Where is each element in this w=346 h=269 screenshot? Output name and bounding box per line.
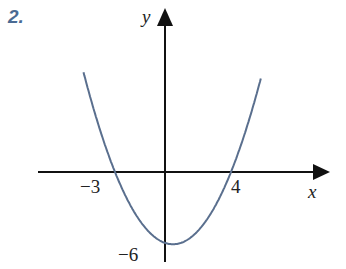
- parabola-graph: [0, 0, 346, 269]
- x-axis-label: x: [308, 181, 316, 203]
- y-axis-label: y: [142, 6, 150, 28]
- x-axis-arrow-icon: [313, 164, 330, 180]
- tick-label-neg6: −6: [118, 244, 138, 266]
- tick-label-4: 4: [231, 176, 241, 198]
- parabola-curve: [84, 72, 261, 244]
- y-axis-arrow-icon: [157, 8, 173, 26]
- tick-label-neg3: −3: [80, 176, 100, 198]
